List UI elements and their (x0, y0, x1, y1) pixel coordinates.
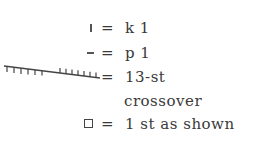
equals-sign: = (101, 20, 114, 36)
knit-stitch-icon (90, 24, 92, 32)
crossover-icon (3, 64, 101, 82)
purl-stitch-icon (87, 52, 94, 54)
square-stitch-icon (84, 119, 93, 128)
legend-label-purl: p 1 (125, 45, 150, 61)
equals-sign: = (101, 69, 114, 85)
legend-label-square: 1 st as shown (125, 116, 235, 132)
legend-label-crossover-cont: crossover (124, 93, 202, 109)
equals-sign: = (101, 116, 114, 132)
equals-sign: = (101, 45, 114, 61)
legend-label-knit: k 1 (125, 20, 150, 36)
legend-label-crossover: 13-st (125, 69, 165, 85)
